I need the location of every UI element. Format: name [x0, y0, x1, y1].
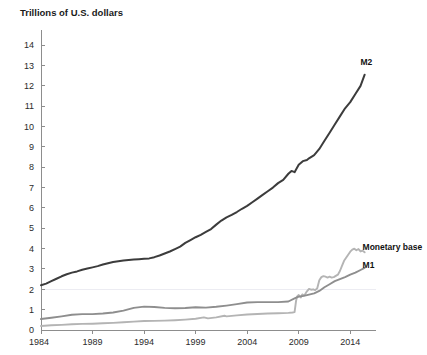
- chart-axis-title: Trillions of U.S. dollars: [20, 7, 123, 18]
- y-tick-label: 7: [29, 183, 34, 193]
- y-tick-label: 9: [29, 142, 34, 152]
- x-tick-label: 2014: [340, 337, 360, 347]
- x-tick-label: 1994: [134, 337, 154, 347]
- y-tick-label: 0: [29, 325, 34, 335]
- y-tick-label: 5: [29, 223, 34, 233]
- y-tick-label: 3: [29, 264, 34, 274]
- y-tick-label: 4: [29, 244, 34, 254]
- y-tick-label: 6: [29, 203, 34, 213]
- y-tick-label: 12: [24, 81, 34, 91]
- x-tick-label: 1999: [186, 337, 206, 347]
- series-label-m1: M1: [363, 260, 375, 270]
- y-axis: 01234567891011121314: [24, 30, 45, 335]
- series-line-m2: [41, 75, 365, 286]
- y-tick-label: 8: [29, 162, 34, 172]
- x-axis: 1984198919941999200420092014: [29, 330, 376, 347]
- money-supply-line-chart: Trillions of U.S. dollars 01234567891011…: [0, 0, 427, 355]
- y-tick-label: 11: [25, 101, 34, 111]
- series-line-m1: [41, 268, 365, 319]
- y-tick-label: 14: [24, 40, 34, 50]
- y-tick-label: 10: [24, 122, 34, 132]
- x-tick-label: 2009: [289, 337, 309, 347]
- chart-svg: Trillions of U.S. dollars 01234567891011…: [0, 0, 427, 355]
- x-tick-label: 1984: [29, 337, 49, 347]
- series-label-m2: M2: [361, 57, 373, 67]
- y-tick-label: 2: [29, 285, 34, 295]
- y-tick-label: 13: [24, 61, 34, 71]
- series-lines: [41, 75, 365, 326]
- y-tick-label: 1: [29, 305, 34, 315]
- series-labels: M2Monetary baseM1: [361, 57, 423, 270]
- series-label-monetary-base: Monetary base: [363, 242, 423, 252]
- x-tick-label: 1989: [83, 337, 103, 347]
- x-tick-label: 2004: [237, 337, 257, 347]
